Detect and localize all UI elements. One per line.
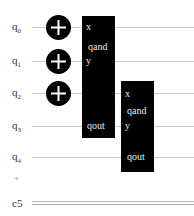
gate-name: qand <box>88 42 107 52</box>
port-x: x <box>86 22 91 32</box>
x-gate-q0[interactable] <box>46 15 71 40</box>
quantum-circuit: q0 q1 q2 q3 q4 + c5 x qand y qout x qand… <box>0 0 194 216</box>
port-qout: qout <box>127 152 145 162</box>
label-q0: q0 <box>12 20 21 37</box>
port-x: x <box>125 89 130 99</box>
plus-marker: + <box>14 173 19 183</box>
label-q3: q3 <box>12 119 21 136</box>
qand-gate-2[interactable]: x qand y qout <box>121 81 154 172</box>
label-q1: q1 <box>12 54 21 71</box>
x-gate-q2[interactable] <box>46 81 71 106</box>
label-q4: q4 <box>12 150 21 167</box>
classical-wire-bottom <box>32 204 194 205</box>
plus-icon <box>46 15 71 40</box>
port-y: y <box>125 121 130 131</box>
gate-name: qand <box>127 106 146 116</box>
x-gate-q1[interactable] <box>46 49 71 74</box>
wire-q4 <box>32 157 194 158</box>
qand-gate-1[interactable]: x qand y qout <box>82 16 115 138</box>
port-qout: qout <box>87 121 105 131</box>
label-q2: q2 <box>12 86 21 103</box>
plus-icon <box>46 49 71 74</box>
classical-wire-top <box>32 201 194 202</box>
plus-icon <box>46 81 71 106</box>
port-y: y <box>86 56 91 66</box>
label-c5: c5 <box>12 197 22 209</box>
